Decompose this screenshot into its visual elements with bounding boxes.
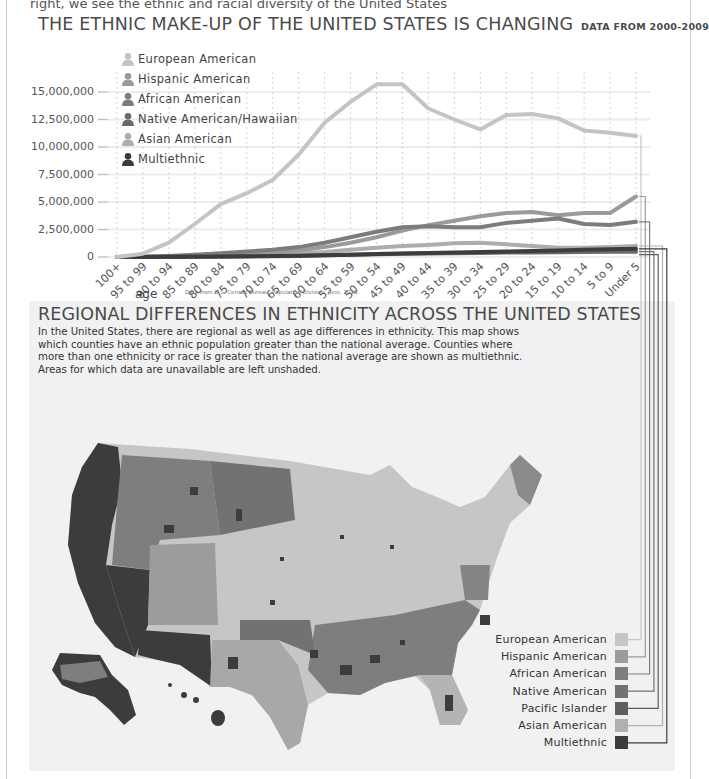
map-legend-item: Asian American (480, 717, 628, 734)
map-region-utah-colorado (148, 543, 218, 625)
map-legend-item: Multiethnic (480, 734, 628, 751)
line-chart (0, 0, 698, 300)
map-legend-label: Asian American (518, 719, 607, 732)
person-icon (121, 152, 135, 166)
y-tick-label: 7,500,000 (0, 168, 94, 181)
map-legend-label: Multiethnic (544, 736, 607, 749)
map-legend-item: Native American (480, 683, 628, 700)
x-axis-title: age (135, 287, 157, 301)
person-icon (121, 92, 135, 106)
map-legend-swatch (615, 736, 628, 749)
map-title: REGIONAL DIFFERENCES IN ETHNICITY ACROSS… (38, 304, 641, 324)
person-icon (121, 112, 135, 126)
map-legend-label: African American (510, 667, 607, 680)
legend-label: Native American/Hawaiian (138, 112, 298, 126)
chart-legend: European AmericanHispanic AmericanAfrica… (121, 49, 298, 169)
y-tick-label: 0 (0, 250, 94, 263)
map-description: In the United States, there are regional… (38, 326, 538, 376)
chart-legend-item: Hispanic American (121, 69, 298, 89)
data-source-note: Data from U.S. Census Bureau, Population… (185, 289, 359, 295)
legend-label: Asian American (138, 132, 232, 146)
map-legend-label: Hispanic American (501, 650, 607, 663)
chart-legend-item: Asian American (121, 129, 298, 149)
map-legend-swatch (615, 633, 628, 646)
map-region-hawaii (168, 683, 225, 726)
y-tick-label: 15,000,000 (0, 85, 94, 98)
map-legend-swatch (615, 702, 628, 715)
legend-label: African American (138, 92, 241, 106)
map-legend-item: Pacific Islander (480, 700, 628, 717)
map-legend-label: European American (495, 633, 607, 646)
legend-label: Multiethnic (138, 152, 205, 166)
legend-label: European American (138, 52, 256, 66)
chart-legend-item: Multiethnic (121, 149, 298, 169)
map-legend-item: European American (480, 631, 628, 648)
map-legend-item: African American (480, 665, 628, 682)
chart-legend-item: European American (121, 49, 298, 69)
chart-legend-item: African American (121, 89, 298, 109)
map-legend-swatch (615, 685, 628, 698)
map-legend-swatch (615, 667, 628, 680)
y-tick-label: 5,000,000 (0, 195, 94, 208)
map-legend-swatch (615, 650, 628, 663)
legend-label: Hispanic American (138, 72, 250, 86)
person-icon (121, 52, 135, 66)
y-tick-label: 12,500,000 (0, 113, 94, 126)
person-icon (121, 132, 135, 146)
map-legend: European AmericanHispanic AmericanAfrica… (480, 631, 628, 751)
person-icon (121, 72, 135, 86)
map-legend-label: Pacific Islander (521, 702, 607, 715)
chart-legend-item: Native American/Hawaiian (121, 109, 298, 129)
y-tick-label: 10,000,000 (0, 140, 94, 153)
map-legend-label: Native American (513, 685, 607, 698)
map-region-florida (420, 675, 468, 725)
map-legend-swatch (615, 719, 628, 732)
map-legend-item: Hispanic American (480, 648, 628, 665)
y-tick-label: 2,500,000 (0, 223, 94, 236)
map-region-mid-atlantic (460, 565, 490, 600)
